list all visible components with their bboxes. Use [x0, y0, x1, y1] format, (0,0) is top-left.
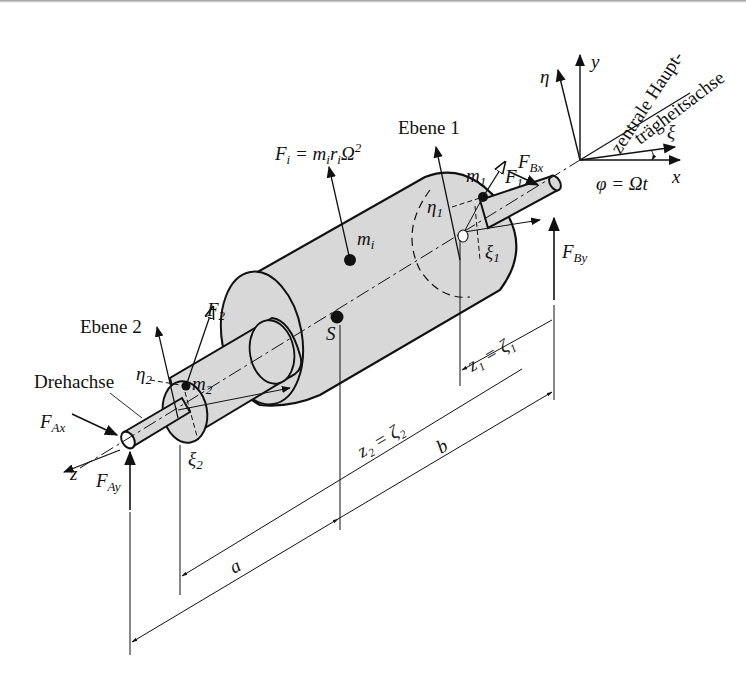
- eta-axis-label: η: [540, 66, 549, 87]
- centrifugal-force-formula: Fi = miriΩ2: [274, 140, 362, 167]
- z-axis-label: z: [69, 463, 78, 484]
- center-of-mass-label: S: [326, 323, 336, 344]
- rotor-diagram: zentrale Haupt- trägheitsachse η y ξ x φ…: [0, 0, 746, 683]
- plane-2-label: Ebene 2: [80, 316, 142, 337]
- force-FBx-label: FBx: [517, 151, 544, 175]
- dimension-a-label: a: [226, 555, 245, 578]
- dimension-b-label: b: [433, 435, 452, 458]
- force-FBy-label: FBy: [561, 241, 588, 265]
- rotation-axis-label: Drehachse: [34, 371, 114, 392]
- z1-equation: z₁ = ζ₁: [463, 332, 518, 376]
- eta2-label: η2: [136, 363, 152, 387]
- y-axis-label: y: [589, 51, 600, 72]
- center-of-mass-S: [331, 311, 344, 324]
- phi-equation: φ = Ωt: [596, 173, 649, 194]
- x-axis-label: x: [671, 166, 681, 187]
- mass-m1-label: m1: [466, 165, 486, 189]
- plane-1-label: Ebene 1: [398, 117, 460, 138]
- force-FAx-label: FAx: [39, 411, 66, 435]
- xi-axis-label: ξ: [667, 121, 676, 142]
- force-F2-label: F2: [206, 299, 226, 323]
- rotation-axis-line: [80, 160, 580, 468]
- force-FAy-label: FAy: [95, 470, 121, 494]
- xi2-label: ξ2: [188, 448, 203, 472]
